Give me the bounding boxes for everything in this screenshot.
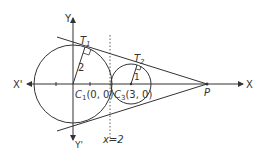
tangent-circles-diagram: Y Y' X X' T1 T2 2 1 C1(0, 0) C3(3, 0) P … — [0, 0, 259, 159]
axis-label-y-neg: Y' — [74, 140, 83, 150]
axis-label-x-neg: X' — [13, 79, 23, 90]
point-p — [206, 83, 209, 86]
label-p: P — [204, 87, 211, 98]
radius-label-2: 2 — [78, 62, 84, 73]
axis-label-x: X — [246, 79, 253, 90]
point-c3 — [130, 83, 132, 85]
label-c1: C1(0, 0) — [75, 89, 113, 102]
radius-label-1: 1 — [134, 72, 140, 82]
label-x-equals-2: x=2 — [102, 134, 124, 145]
axis-label-y: Y — [64, 13, 72, 24]
